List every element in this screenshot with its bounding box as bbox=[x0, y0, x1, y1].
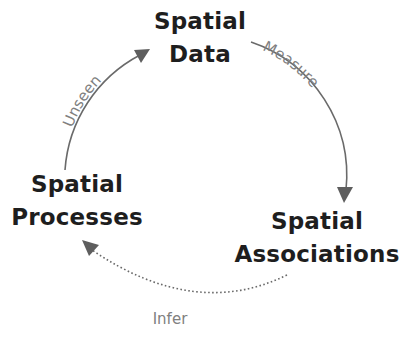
measure-label: Measure bbox=[260, 37, 323, 91]
node-spatial-associations: Spatial Associations bbox=[232, 205, 402, 271]
node-spatial-processes: Spatial Processes bbox=[6, 168, 148, 234]
unseen-label: Unseen bbox=[59, 71, 105, 129]
node-spatial-data: Spatial Data bbox=[140, 5, 260, 71]
infer-label: Infer bbox=[153, 310, 188, 328]
arrowhead-icon bbox=[337, 187, 353, 203]
node-spatial-associations-line1: Spatial bbox=[232, 205, 402, 238]
node-spatial-associations-line2: Associations bbox=[232, 238, 402, 271]
cycle-diagram: Unseen Measure Infer Spatial Data Spatia… bbox=[0, 0, 408, 337]
node-spatial-data-line2: Data bbox=[140, 38, 260, 71]
node-spatial-processes-line2: Processes bbox=[6, 201, 148, 234]
node-spatial-data-line1: Spatial bbox=[140, 5, 260, 38]
node-spatial-processes-line1: Spatial bbox=[6, 168, 148, 201]
